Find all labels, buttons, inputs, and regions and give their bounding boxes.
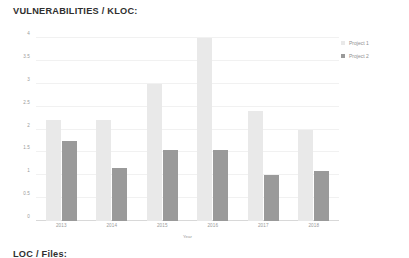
bar-2015-series-2[interactable] [163, 150, 178, 221]
bar-group-2013 [36, 38, 87, 221]
bar-group-2018 [289, 38, 340, 221]
x-axis-tick-label: 2013 [36, 223, 87, 228]
legend-label: Project 1 [349, 40, 369, 46]
x-axis-title: Year [36, 234, 339, 239]
bar-2015-series-1[interactable] [147, 84, 162, 221]
y-axis-tick-label: 2.5 [23, 99, 30, 104]
bar-2013-series-1[interactable] [46, 120, 61, 221]
y-axis-tick-label: 4 [27, 31, 30, 36]
bar-2014-series-1[interactable] [96, 120, 111, 221]
y-axis-tick-label: 3 [27, 76, 30, 81]
x-axis-tick-label: 2015 [137, 223, 188, 228]
x-axis-tick-label: 2018 [289, 223, 340, 228]
footer-section-heading: LOC / Files: [13, 249, 67, 258]
bar-2014-series-2[interactable] [112, 168, 127, 221]
legend-swatch-icon [341, 54, 345, 58]
bar-2017-series-1[interactable] [248, 111, 263, 221]
x-axis-ticks: 201320142015201620172018 [36, 223, 339, 228]
legend-item-2[interactable]: Project 2 [341, 53, 369, 59]
x-axis-tick-label: 2016 [188, 223, 239, 228]
bar-group-2014 [87, 38, 138, 221]
y-axis-tick-label: 3.5 [23, 53, 30, 58]
legend-label: Project 2 [349, 53, 369, 59]
y-axis-tick-label: 0.5 [23, 191, 30, 196]
bar-2013-series-2[interactable] [62, 141, 77, 221]
bar-2018-series-2[interactable] [314, 171, 329, 221]
bar-group-2016 [188, 38, 239, 221]
legend-item-1[interactable]: Project 1 [341, 40, 369, 46]
plot-area: 00.511.522.533.54 [36, 38, 339, 221]
bar-series-container [36, 38, 339, 221]
bar-group-2015 [137, 38, 188, 221]
bar-2016-series-2[interactable] [213, 150, 228, 221]
page-title: VULNERABILITIES / KLOC: [13, 6, 138, 16]
bar-2016-series-1[interactable] [197, 38, 212, 221]
y-axis-tick-label: 1 [27, 168, 30, 173]
bar-2018-series-1[interactable] [298, 130, 313, 222]
y-axis-tick-label: 1.5 [23, 145, 30, 150]
x-axis-tick-label: 2017 [238, 223, 289, 228]
y-axis-tick-label: 0 [27, 214, 30, 219]
bar-group-2017 [238, 38, 289, 221]
x-axis-tick-label: 2014 [87, 223, 138, 228]
chart-page: VULNERABILITIES / KLOC: 00.511.522.533.5… [0, 0, 409, 258]
chart-legend: Project 1Project 2 [341, 40, 369, 59]
bar-2017-series-2[interactable] [264, 175, 279, 221]
y-axis-tick-label: 2 [27, 122, 30, 127]
legend-swatch-icon [341, 41, 345, 45]
